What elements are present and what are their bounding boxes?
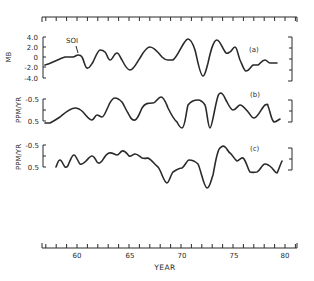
curve-a-soi <box>45 39 277 76</box>
y-axis-c-left <box>43 145 46 167</box>
xtick-60: 60 <box>73 252 82 260</box>
soi-annotation: SOI <box>66 37 78 45</box>
y-axis-a-right <box>288 37 292 81</box>
panel-tag-b: (b) <box>250 91 260 99</box>
panel-c: PPM/YR -0.5 0.5 (c) <box>15 142 292 189</box>
ytick-a-neg2: -2.0 <box>24 64 38 72</box>
xtick-70: 70 <box>178 252 187 260</box>
ytick-a-4: 4.0 <box>27 34 38 42</box>
panel-tag-a: (a) <box>249 46 259 54</box>
ytick-b-05: 0.5 <box>28 118 39 126</box>
xtick-65: 65 <box>126 252 135 260</box>
y-axis-c-right <box>288 148 292 170</box>
xtick-80: 80 <box>281 252 290 260</box>
curve-c <box>56 146 282 188</box>
y-axis-b-left <box>43 99 46 121</box>
top-time-axis <box>42 17 297 22</box>
ytick-b-neg05: -0.5 <box>25 96 39 104</box>
figure: MB 4.0 2.0 0 -2.0 -4.0 SOI (a) PPM/YR -0… <box>0 0 314 281</box>
ytick-a-2: 2.0 <box>27 44 38 52</box>
xtick-75: 75 <box>230 252 239 260</box>
panel-tag-c: (c) <box>250 145 260 153</box>
soi-leader-line <box>76 46 78 53</box>
ytick-c-05: 0.5 <box>28 164 39 172</box>
ylabel-a: MB <box>5 51 13 62</box>
y-axis-a-left <box>43 37 46 78</box>
ytick-c-neg05: -0.5 <box>25 142 39 150</box>
panel-b: PPM/YR -0.5 0.5 (b) <box>15 91 292 128</box>
ytick-a-0: 0 <box>34 54 38 62</box>
bottom-time-axis: 60 65 70 75 80 YEAR <box>42 243 297 272</box>
x-axis-label: YEAR <box>153 263 176 272</box>
ylabel-b: PPM/YR <box>15 97 23 123</box>
curve-b <box>45 93 280 128</box>
panel-a: MB 4.0 2.0 0 -2.0 -4.0 SOI (a) <box>5 34 292 83</box>
y-axis-b-right <box>288 100 292 122</box>
ylabel-c: PPM/YR <box>15 144 23 170</box>
ytick-a-neg4: -4.0 <box>24 75 38 83</box>
